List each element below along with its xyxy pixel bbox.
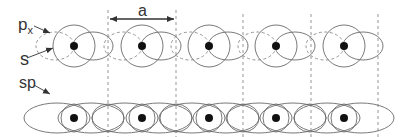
lattice-constant-label: a <box>138 3 147 19</box>
bottom-row-orbitals <box>24 103 394 133</box>
s-label: s <box>20 50 29 68</box>
cell-boundaries <box>108 10 378 137</box>
orbital-diagram <box>0 0 413 137</box>
sp-label: sp <box>19 75 36 91</box>
top-row-orbitals <box>36 25 383 67</box>
px-label: px <box>18 16 33 33</box>
